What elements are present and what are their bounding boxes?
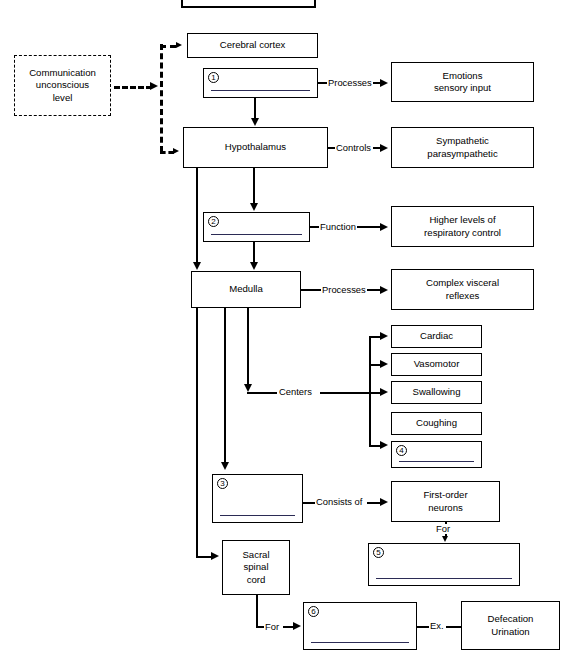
- emotions-line-2: sensory input: [434, 82, 491, 94]
- edge-label-consists-of: Consists of: [315, 497, 363, 507]
- link-medulla-to-box3: [224, 308, 226, 463]
- number-tag-3: 3: [217, 478, 228, 489]
- defecation-line-2: Urination: [491, 626, 529, 638]
- edge-label-for-1: For: [435, 524, 451, 534]
- node-sacral-spinal-cord: Sacral spinal cord: [222, 540, 290, 595]
- edge-label-centers: Centers: [278, 387, 313, 397]
- dashed-branch-to-cortex: [160, 45, 176, 48]
- node-emotions: Emotions sensory input: [391, 62, 534, 102]
- dashed-trunk-vertical: [160, 44, 163, 152]
- arrow-into-emotions: [380, 79, 388, 87]
- sympathetic-line-2: parasympathetic: [427, 148, 497, 160]
- arrow-into-box6: [293, 622, 301, 630]
- stub-box3-to-consists: [303, 502, 315, 504]
- higher-levels-line-2: respiratory control: [424, 227, 501, 239]
- link-medulla-to-centers-vertical: [247, 308, 249, 385]
- communication-box: Communication unconscious level: [14, 55, 111, 116]
- dashed-branch-to-hypothalamus: [160, 151, 174, 154]
- sacral-line-3: cord: [247, 574, 266, 586]
- number-tag-5: 5: [373, 547, 384, 558]
- answer-line-4: [399, 461, 474, 462]
- answer-box-2[interactable]: 2: [203, 212, 310, 242]
- stub-medulla-to-processes: [301, 289, 321, 291]
- arrow-into-medulla-top: [250, 262, 258, 270]
- arrow-into-swallowing: [380, 388, 388, 396]
- cardiac-label: Cardiac: [420, 330, 453, 342]
- cerebral-cortex-label: Cerebral cortex: [220, 39, 286, 51]
- answer-box-3[interactable]: 3: [212, 474, 303, 523]
- node-first-order-neurons: First-order neurons: [391, 481, 500, 522]
- arrow-into-box2: [250, 203, 258, 211]
- edge-label-for-2: For: [264, 622, 280, 632]
- number-tag-6: 6: [308, 606, 319, 617]
- arrow-into-first-order-neurons: [380, 498, 388, 506]
- sacral-line-1: Sacral: [242, 549, 269, 561]
- arrow-into-sympathetic: [380, 144, 388, 152]
- edge-label-processes-2: Processes: [321, 285, 367, 295]
- link-hypothalamus-to-box2: [253, 168, 255, 204]
- defecation-line-1: Defecation: [488, 613, 534, 625]
- node-higher-levels: Higher levels of respiratory control: [391, 206, 534, 247]
- stub-hypothalamus-to-controls: [328, 147, 335, 149]
- sacral-line-2: spinal: [243, 561, 268, 573]
- link-medulla-to-sacral-vertical: [196, 308, 198, 557]
- link-box2-to-medulla: [253, 242, 255, 263]
- flowchart-canvas: Communication unconscious level Cerebral…: [0, 0, 585, 669]
- node-swallowing: Swallowing: [391, 381, 482, 404]
- arrow-into-cerebral-cortex: [176, 42, 182, 48]
- link-centers-elbow-horizontal: [247, 392, 277, 394]
- number-tag-4: 4: [396, 445, 407, 456]
- arrow-into-box5: [442, 536, 448, 542]
- stub-box2-to-function: [310, 226, 319, 228]
- link-hypothalamus-to-medulla-left: [196, 168, 198, 263]
- answer-line-2: [211, 234, 302, 235]
- centers-distribution-trunk: [369, 336, 371, 446]
- node-complex-visceral: Complex visceral reflexes: [391, 269, 534, 310]
- edge-label-ex: Ex.: [429, 621, 445, 631]
- link-ex-to-defecation: [446, 626, 461, 628]
- edge-label-function: Function: [319, 222, 357, 232]
- link-sacral-elbow: [256, 626, 264, 628]
- edge-label-controls: Controls: [335, 143, 372, 153]
- communication-line-2: unconscious: [36, 79, 89, 91]
- higher-levels-line-1: Higher levels of: [429, 214, 495, 226]
- top-partial-box: [181, 0, 316, 8]
- swallowing-label: Swallowing: [413, 386, 461, 398]
- vasomotor-label: Vasomotor: [414, 358, 460, 370]
- answer-box-6[interactable]: 6: [303, 602, 417, 650]
- answer-line-3: [220, 515, 295, 516]
- link-processes2-to-complex-visceral: [365, 289, 381, 291]
- link-consists-to-first-order: [367, 502, 381, 504]
- arrow-into-hypothalamus-top: [251, 118, 259, 126]
- node-cerebral-cortex: Cerebral cortex: [187, 33, 318, 58]
- number-tag-2: 2: [208, 216, 219, 227]
- answer-line-1: [211, 90, 310, 91]
- arrow-into-medulla-left: [193, 262, 201, 270]
- arrow-centers-elbow: [244, 384, 252, 392]
- stub-box6-to-ex: [417, 626, 429, 628]
- first-order-line-1: First-order: [423, 489, 467, 501]
- node-defecation-urination: Defecation Urination: [461, 601, 560, 650]
- sympathetic-line-1: Sympathetic: [436, 135, 489, 147]
- emotions-line-1: Emotions: [443, 70, 483, 82]
- complex-visceral-line-1: Complex visceral: [426, 277, 499, 289]
- dashed-arrow-into-trunk: [150, 82, 158, 90]
- link-box1-to-hypothalamus: [254, 98, 256, 119]
- link-function-to-higher-levels: [357, 226, 381, 228]
- dashed-connector-horizontal: [114, 86, 152, 89]
- answer-box-1[interactable]: 1: [203, 68, 318, 98]
- arrow-into-vasomotor: [380, 360, 388, 368]
- communication-line-1: Communication: [29, 67, 96, 79]
- node-hypothalamus: Hypothalamus: [183, 127, 328, 168]
- answer-box-5[interactable]: 5: [368, 543, 520, 586]
- answer-line-6: [311, 642, 409, 643]
- medulla-label: Medulla: [229, 283, 263, 295]
- arrow-into-higher-levels: [380, 223, 388, 231]
- first-order-line-2: neurons: [428, 502, 463, 514]
- node-coughing: Coughing: [391, 412, 482, 435]
- communication-line-3: level: [53, 92, 73, 104]
- node-medulla: Medulla: [191, 271, 301, 308]
- link-medulla-to-sacral-horizontal: [196, 556, 212, 558]
- link-sacral-down: [256, 595, 258, 628]
- answer-box-4[interactable]: 4: [391, 441, 482, 468]
